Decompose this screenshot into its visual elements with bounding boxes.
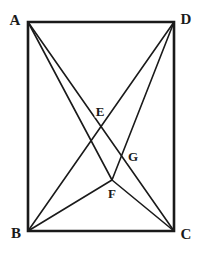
segment-D-F	[112, 22, 174, 180]
geometry-figure: A D B C E F G	[0, 0, 200, 253]
segment-B-F	[28, 180, 112, 231]
point-label-F: F	[107, 187, 117, 200]
vertex-label-D: D	[181, 12, 192, 27]
vertex-label-C: C	[181, 227, 192, 242]
figure-canvas	[0, 0, 200, 253]
point-label-G: G	[127, 150, 139, 163]
vertex-label-A: A	[10, 13, 21, 28]
point-label-E: E	[95, 105, 106, 118]
vertex-label-B: B	[11, 226, 21, 241]
segment-layer	[28, 22, 174, 231]
segment-A-F	[28, 22, 112, 180]
